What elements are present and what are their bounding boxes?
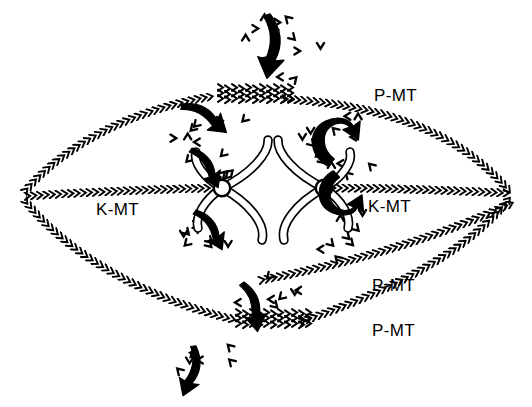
tubulin-subunit bbox=[333, 254, 342, 263]
label-p-mt-top-right: P-MT bbox=[374, 86, 417, 106]
overlap-zone-top-midzone-overlap bbox=[218, 84, 293, 103]
tubulin-subunit bbox=[299, 134, 306, 140]
tubulin-subunit bbox=[367, 161, 376, 170]
tubulin-subunit bbox=[283, 14, 292, 23]
microtubule-p-mt-lower-right bbox=[302, 200, 508, 321]
tubulin-subunit bbox=[175, 366, 184, 375]
tubulin-subunit bbox=[345, 113, 351, 120]
tubulin-subunit bbox=[290, 75, 299, 84]
tubulin-subunit bbox=[252, 25, 258, 32]
tubulin-subunit bbox=[307, 128, 314, 134]
tubulin-subunit bbox=[227, 357, 236, 366]
tubulin-subunit bbox=[277, 73, 283, 80]
right-chromosome bbox=[278, 140, 350, 240]
tubulin-subunit bbox=[182, 239, 191, 248]
tubulin-subunit bbox=[240, 115, 249, 124]
flux-arrow-arrow-top-influx bbox=[255, 13, 290, 80]
tubulin-subunit bbox=[294, 47, 300, 54]
tubulin-subunit bbox=[218, 149, 227, 158]
figure-canvas: P-MTK-MTK-MTP-MTP-MT bbox=[0, 0, 532, 407]
tubulin-subunit bbox=[343, 232, 352, 241]
flux-arrow-arrow-bottom-outflux bbox=[239, 279, 268, 333]
tubulin-subunit bbox=[277, 292, 286, 301]
tubulin-subunit bbox=[235, 299, 241, 306]
tubulin-subunit bbox=[225, 342, 234, 351]
tubulin-subunit bbox=[318, 246, 324, 253]
flux-arrow-arrow-bottom-influx bbox=[174, 344, 211, 399]
tubulin-subunit bbox=[194, 139, 200, 146]
tubulin-subunit bbox=[225, 241, 232, 247]
left-chromosome bbox=[196, 140, 268, 240]
label-k-mt-left: K-MT bbox=[96, 200, 139, 220]
tubulin-subunit bbox=[171, 135, 177, 142]
spindle-diagram bbox=[0, 0, 532, 407]
tubulin-subunit bbox=[265, 272, 274, 281]
label-k-mt-right: K-MT bbox=[368, 197, 411, 217]
tubulin-subunit bbox=[327, 239, 336, 248]
tubulin-subunit bbox=[242, 35, 249, 41]
microtubule-k-mt-left bbox=[28, 188, 214, 196]
label-p-mt-bottom-lower: P-MT bbox=[372, 321, 415, 341]
tubulin-subunit bbox=[330, 126, 339, 135]
tubulin-subunit bbox=[346, 239, 355, 248]
microtubule-k-mt-right bbox=[332, 188, 506, 193]
tubulin-subunit bbox=[355, 114, 362, 120]
tubulin-subunit bbox=[268, 296, 274, 303]
label-p-mt-bottom-upper: P-MT bbox=[372, 276, 415, 296]
tubulin-subunit bbox=[184, 134, 191, 140]
tubulin-subunit bbox=[317, 43, 324, 49]
tubulin-subunit bbox=[288, 33, 297, 42]
microtubule-p-mt-upper-left bbox=[26, 97, 211, 190]
